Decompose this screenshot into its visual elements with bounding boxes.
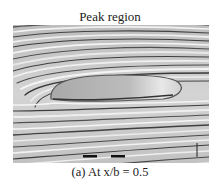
streamline-image [13,25,209,163]
figure-caption: (a) At x/b = 0.5 [0,165,220,180]
figure-title: Peak region [0,9,220,25]
